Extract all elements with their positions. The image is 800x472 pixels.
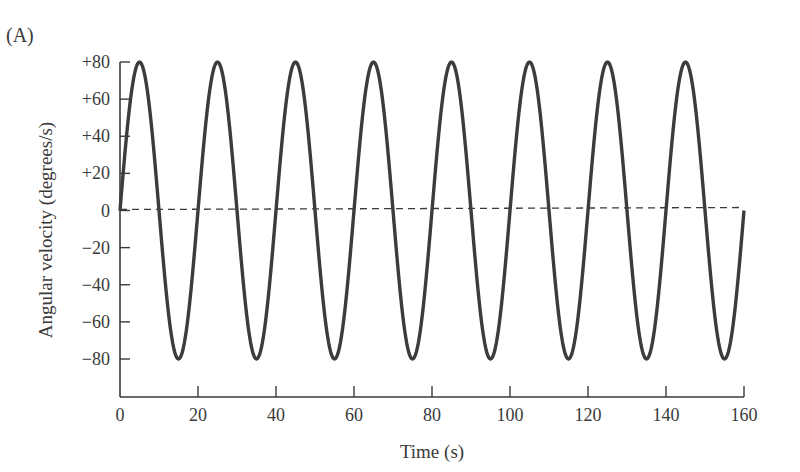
angular-velocity-curve [120, 62, 744, 359]
y-tick-label: +80 [82, 52, 110, 72]
y-tick-label: −80 [82, 349, 110, 369]
y-tick-label: −20 [82, 238, 110, 258]
x-tick-label: 0 [116, 405, 125, 425]
x-tick-label: 80 [423, 405, 441, 425]
panel-label: (A) [6, 24, 34, 47]
x-tick-label: 100 [497, 405, 524, 425]
y-tick-label: +20 [82, 163, 110, 183]
y-tick-label: +40 [82, 126, 110, 146]
y-tick-label: 0 [101, 201, 110, 221]
x-axis-label: Time (s) [400, 441, 464, 463]
y-axis: +80+60+40+200−20−40−60−80 [82, 52, 130, 397]
x-tick-label: 160 [731, 405, 758, 425]
x-tick-label: 20 [189, 405, 207, 425]
x-tick-label: 40 [267, 405, 285, 425]
chart: (A) +80+60+40+200−20−40−60−80 0204060801… [0, 0, 800, 472]
y-tick-label: −60 [82, 312, 110, 332]
x-tick-label: 120 [575, 405, 602, 425]
x-tick-label: 140 [653, 405, 680, 425]
y-tick-label: −40 [82, 275, 110, 295]
x-tick-label: 60 [345, 405, 363, 425]
y-axis-label: Angular velocity (degrees/s) [35, 122, 57, 338]
y-tick-label: +60 [82, 89, 110, 109]
x-axis: 020406080100120140160 [116, 386, 758, 425]
